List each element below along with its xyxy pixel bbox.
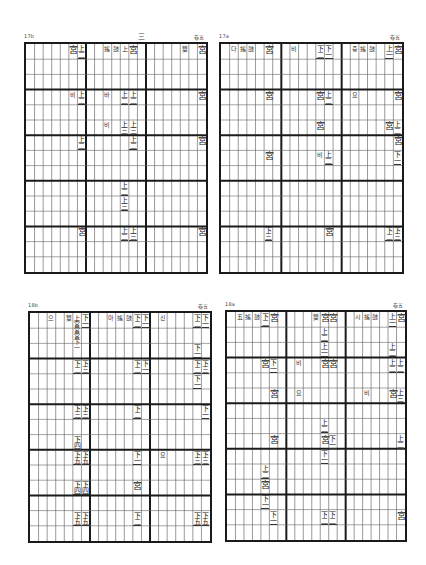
notation-symbol: 上二 <box>121 92 129 105</box>
notation-symbol: 下五 <box>73 452 81 465</box>
notation-symbol: 上三 <box>121 198 129 211</box>
notation-symbol: 下三 <box>202 452 210 465</box>
notation-symbol: 鼓 <box>112 46 120 52</box>
notation-symbol: 宮 <box>270 436 277 445</box>
notation-symbol: 바 <box>104 92 112 98</box>
notation-symbol: 下五 <box>82 513 90 526</box>
notation-symbol: 下一 <box>270 512 277 525</box>
notation-symbol: 上二 <box>389 360 396 373</box>
notation-symbol: 下一 <box>329 436 336 449</box>
notation-symbol: 下一 <box>202 315 210 328</box>
notation-symbol: 搖 <box>359 46 367 52</box>
section-mark: 三 <box>138 31 145 41</box>
notation-symbol: 宮 <box>265 92 273 101</box>
notation-symbol: 搖 <box>104 46 112 52</box>
notation-symbol: 上二 <box>397 436 404 449</box>
notation-symbol: 下二 <box>261 314 268 327</box>
notation-symbol: 上二 <box>78 137 86 150</box>
notation-symbol: 下三 <box>265 228 273 241</box>
notation-grid: 宮上二搖鼓上宮雙宮비上二바上二上二宮비上三上三上二上二宮上二上三宮上二上三宮 <box>24 42 208 274</box>
notation-symbol: 下二 <box>193 315 201 328</box>
notation-symbol: 宮 <box>321 314 328 323</box>
notation-symbol: 下二 <box>73 361 81 374</box>
notation-symbol: 시 <box>355 314 362 320</box>
notation-symbol: 비 <box>290 46 298 52</box>
notation-symbol: 下二 <box>193 361 201 374</box>
page-number-label: 18a <box>225 301 235 307</box>
notation-symbol: 宮 <box>129 46 137 55</box>
notation-grid: 五搖鼓下二宮雙宮宮시搖鼓上一宮上二上一上二宮下一비宮宮上二上二宮요비宮上三上二宮… <box>225 310 407 542</box>
notation-symbol: 宮 <box>389 390 396 399</box>
notation-symbol: 宮 <box>265 152 273 161</box>
grid-lines <box>221 44 402 272</box>
notation-symbol: 비 <box>69 92 77 98</box>
notation-symbol: 搖 <box>363 314 370 320</box>
notation-symbol: 宮 <box>316 122 324 131</box>
notation-symbol: 上宮宮宮下一 <box>73 315 81 351</box>
notation-symbol: 비 <box>316 152 324 158</box>
notation-symbol: 上二 <box>78 46 86 59</box>
notation-symbol: 宮 <box>265 46 273 55</box>
grid-lines <box>30 313 210 541</box>
notation-symbol: 宮 <box>397 512 404 521</box>
notation-symbol: 비 <box>363 390 370 396</box>
notation-symbol: 下二 <box>133 315 141 328</box>
notation-symbol: 鼓 <box>125 315 133 321</box>
notation-symbol: 중 <box>351 46 359 52</box>
notation-symbol: 宮 <box>261 360 268 369</box>
notation-symbol: 下五 <box>82 452 90 465</box>
notation-symbol: 下一 <box>133 452 141 465</box>
notation-grid: 다搖鼓宮비下二下一중搖鼓上一宮宮宮上二요宮宮宮上二宮宮비上二下一下三宮下二下三 <box>219 42 404 274</box>
notation-symbol: 上二 <box>261 466 268 479</box>
grid-lines <box>227 312 405 540</box>
notation-symbol: 下一 <box>270 360 277 373</box>
notation-symbol: 下五 <box>202 513 210 526</box>
notation-symbol: 下四 <box>73 482 81 495</box>
notation-symbol: 宮 <box>325 228 333 237</box>
notation-symbol: 雙 <box>312 314 319 320</box>
notation-symbol: 宮 <box>69 46 77 55</box>
notation-symbol: 비 <box>104 122 112 128</box>
notation-symbol: 上三 <box>129 122 137 135</box>
notation-symbol: 下三 <box>193 452 201 465</box>
notation-symbol: 宮 <box>397 314 404 323</box>
notation-symbol: 下五 <box>73 513 81 526</box>
notation-symbol: 鼓 <box>372 314 379 320</box>
notation-symbol: 上二 <box>121 228 129 241</box>
notation-symbol: 宮 <box>261 481 268 490</box>
notation-symbol: 上一 <box>385 46 393 59</box>
notation-symbol: 下一 <box>394 152 402 165</box>
notation-symbol: 下二 <box>321 512 328 525</box>
notation-symbol: 宮 <box>133 482 141 491</box>
notation-symbol: 宮 <box>198 137 206 146</box>
notation-symbol: 요 <box>159 452 167 458</box>
notation-symbol: 上三 <box>397 390 404 403</box>
notation-symbol: 下三 <box>202 361 210 374</box>
notation-symbol: 요 <box>351 92 359 98</box>
notation-symbol: 宮 <box>198 92 206 101</box>
notation-symbol: 上二 <box>397 360 404 373</box>
volume-label: 卷五 <box>194 33 204 40</box>
notation-symbol: 下一 <box>142 361 150 374</box>
notation-symbol: 下一 <box>261 496 268 509</box>
notation-symbol: 비 <box>295 360 302 366</box>
notation-symbol: 下二 <box>385 228 393 241</box>
notation-symbol: 上一 <box>389 314 396 327</box>
notation-symbol: 下一 <box>321 451 328 464</box>
volume-label: 卷五 <box>390 33 400 40</box>
volume-label: 卷五 <box>393 301 403 308</box>
notation-grid: 으雙上宮宮宮下一下一마搖鼓下二下一신下二下一下一下二下三下二下一下二下三下一下三… <box>28 311 212 543</box>
notation-symbol: 上三 <box>129 228 137 241</box>
notation-symbol: 下一 <box>193 345 201 358</box>
notation-symbol: 下三 <box>394 228 402 241</box>
notation-symbol: 上二 <box>129 137 137 150</box>
notation-symbol: 마 <box>108 315 116 321</box>
grid-lines <box>26 44 206 272</box>
page-number-label: 18b <box>28 302 38 308</box>
notation-symbol: 宮 <box>321 436 328 445</box>
notation-symbol: 下二 <box>329 512 336 525</box>
notation-symbol: 鼓 <box>247 46 255 52</box>
notation-symbol: 宮 <box>329 360 336 369</box>
notation-symbol: 下四 <box>73 437 81 450</box>
notation-symbol: 上二 <box>129 92 137 105</box>
